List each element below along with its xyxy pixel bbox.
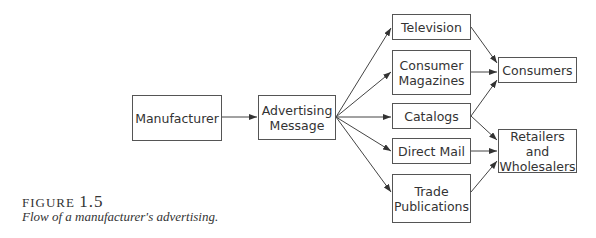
node-advertising-message: Advertising Message bbox=[258, 95, 336, 140]
node-television: Television bbox=[392, 14, 471, 40]
arrow-message-to-trade bbox=[336, 117, 391, 192]
arrow-message-to-magazines bbox=[336, 72, 391, 117]
node-consumer-magazines: Consumer Magazines bbox=[392, 50, 471, 95]
node-direct-mail: Direct Mail bbox=[392, 138, 471, 164]
arrow-message-to-directmail bbox=[336, 117, 391, 151]
figure-caption: Flow of a manufacturer's advertising. bbox=[22, 209, 218, 225]
arrow-catalogs-to-retailers bbox=[471, 116, 497, 140]
node-manufacturer: Manufacturer bbox=[132, 95, 222, 141]
arrow-trade-to-retailers bbox=[471, 161, 497, 192]
node-retailers-wholesalers: Retailers and Wholesalers bbox=[498, 129, 577, 173]
arrow-television-to-consumers bbox=[471, 27, 497, 63]
node-trade-publications: Trade Publications bbox=[392, 174, 471, 223]
node-catalogs: Catalogs bbox=[392, 103, 471, 129]
figure-label-prefix: FIGURE bbox=[22, 195, 79, 210]
arrow-catalogs-to-consumers bbox=[471, 80, 497, 116]
arrow-message-to-television bbox=[336, 28, 391, 117]
node-consumers: Consumers bbox=[498, 57, 577, 83]
